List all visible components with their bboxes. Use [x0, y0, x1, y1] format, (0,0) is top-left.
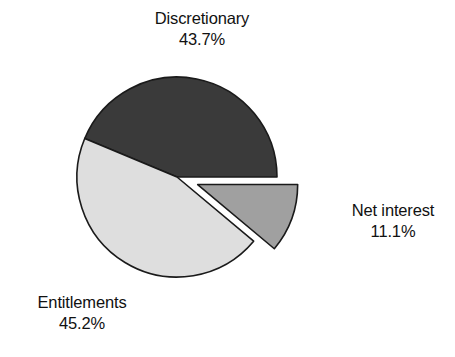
slice-label-net-interest: Net interest 11.1% — [335, 200, 451, 243]
slice-label-entitlements-name: Entitlements — [8, 292, 156, 313]
slice-label-net-interest-name: Net interest — [335, 200, 451, 221]
slice-label-discretionary-value: 43.7% — [122, 29, 282, 50]
slice-label-net-interest-value: 11.1% — [335, 221, 451, 242]
slice-label-discretionary: Discretionary 43.7% — [122, 8, 282, 51]
slice-label-discretionary-name: Discretionary — [122, 8, 282, 29]
slice-label-entitlements: Entitlements 45.2% — [8, 292, 156, 335]
pie-chart-figure: Discretionary 43.7% Net interest 11.1% E… — [0, 0, 455, 357]
slice-label-entitlements-value: 45.2% — [8, 313, 156, 334]
